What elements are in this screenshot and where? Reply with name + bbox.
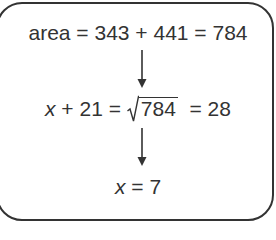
radicand: 784 (139, 97, 178, 120)
arrow-down-icon (137, 50, 147, 88)
square-root: 784 (127, 96, 178, 122)
arrow-down-icon (137, 128, 147, 166)
equation-area: area = 343 + 441 = 784 (0, 20, 276, 46)
sqrt-result: 28 (208, 97, 231, 120)
equation-sqrt: x + 21 = 784 = 28 (0, 96, 276, 122)
term-441: 441 (153, 21, 188, 44)
sqrt-icon (127, 94, 139, 122)
plus-sign: + (135, 21, 147, 44)
equals-sign: = (131, 175, 143, 198)
area-result: 784 (212, 21, 247, 44)
plus-sign: + (61, 97, 73, 120)
variable-x: x (45, 97, 56, 120)
term-343: 343 (94, 21, 129, 44)
solution-value: 7 (149, 175, 161, 198)
equals-sign: = (76, 21, 88, 44)
equals-sign: = (190, 97, 202, 120)
variable-x: x (115, 175, 126, 198)
equation-solution: x = 7 (0, 174, 276, 200)
constant-21: 21 (79, 97, 102, 120)
equals-sign: = (194, 21, 206, 44)
equals-sign: = (109, 97, 121, 120)
area-label: area (28, 21, 70, 44)
